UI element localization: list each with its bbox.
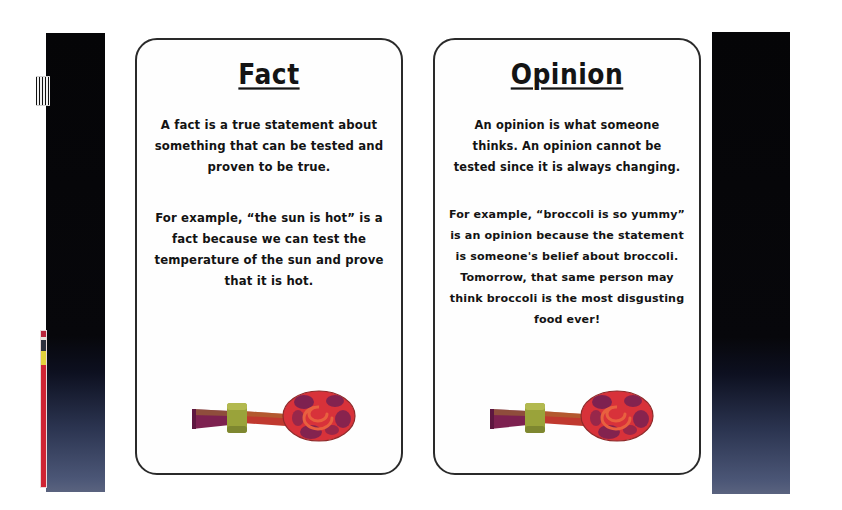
illustration-container <box>137 385 401 447</box>
scan-edge-band-left <box>46 33 105 492</box>
scan-edge-band-right <box>712 32 790 494</box>
card-title-fact: Fact <box>238 58 299 90</box>
card-paragraph-example: For example, “the sun is hot” is a fact … <box>153 208 385 292</box>
card-paragraph-definition: A fact is a true statement about somethi… <box>153 115 385 178</box>
color-calibration-strip <box>40 330 47 488</box>
card-paragraph-example: For example, “broccoli is so yummy” is a… <box>448 204 686 330</box>
illustration-container <box>435 385 699 447</box>
party-blower-icon <box>478 385 656 447</box>
party-blower-icon <box>180 385 358 447</box>
poster-page: Fact A fact is a true statement about so… <box>0 0 842 510</box>
card-title-opinion: Opinion <box>511 58 624 90</box>
barcode-mark-icon <box>36 76 50 106</box>
card-opinion: Opinion An opinion is what someone think… <box>433 38 701 475</box>
card-paragraph-definition: An opinion is what someone thinks. An op… <box>451 115 683 178</box>
card-fact: Fact A fact is a true statement about so… <box>135 38 403 475</box>
card-body-fact: A fact is a true statement about somethi… <box>155 115 383 292</box>
card-body-opinion: An opinion is what someone thinks. An op… <box>453 115 681 330</box>
